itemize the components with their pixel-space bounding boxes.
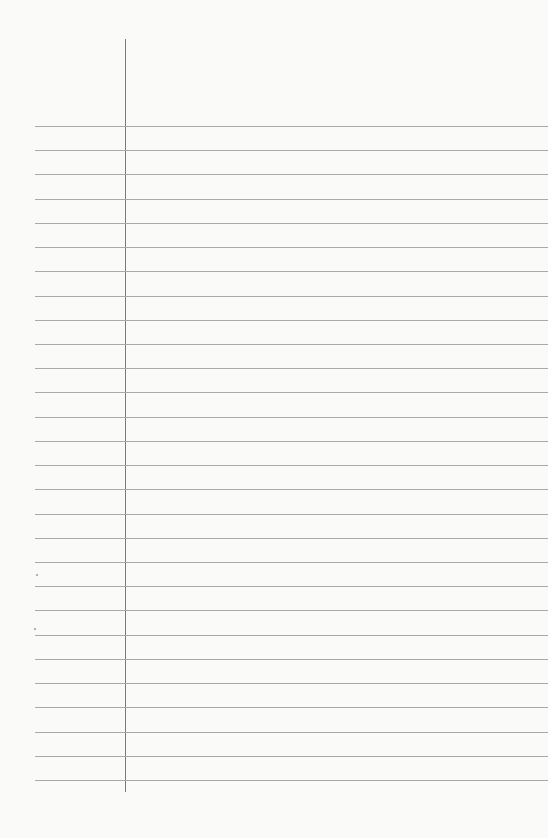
speck bbox=[34, 628, 36, 630]
ruled-line bbox=[35, 344, 548, 345]
ruled-line bbox=[35, 562, 548, 563]
ruled-line bbox=[35, 247, 548, 248]
margin-line bbox=[125, 39, 126, 792]
ruled-line bbox=[35, 296, 548, 297]
ruled-line bbox=[35, 126, 548, 127]
ruled-line bbox=[35, 417, 548, 418]
ruled-line bbox=[35, 271, 548, 272]
ruled-line bbox=[35, 320, 548, 321]
ruled-line bbox=[35, 707, 548, 708]
lined-paper bbox=[0, 0, 548, 838]
ruled-line bbox=[35, 635, 548, 636]
ruled-line bbox=[35, 659, 548, 660]
ruled-line bbox=[35, 368, 548, 369]
ruled-line bbox=[35, 586, 548, 587]
ruled-line bbox=[35, 223, 548, 224]
ruled-line bbox=[35, 489, 548, 490]
ruled-line bbox=[35, 514, 548, 515]
speck bbox=[36, 574, 38, 576]
ruled-line bbox=[35, 174, 548, 175]
ruled-line bbox=[35, 780, 548, 781]
ruled-line bbox=[35, 441, 548, 442]
ruled-line bbox=[35, 610, 548, 611]
ruled-line bbox=[35, 683, 548, 684]
ruled-line bbox=[35, 465, 548, 466]
ruled-line bbox=[35, 756, 548, 757]
ruled-line bbox=[35, 199, 548, 200]
ruled-line bbox=[35, 732, 548, 733]
ruled-line bbox=[35, 150, 548, 151]
ruled-line bbox=[35, 392, 548, 393]
ruled-line bbox=[35, 538, 548, 539]
